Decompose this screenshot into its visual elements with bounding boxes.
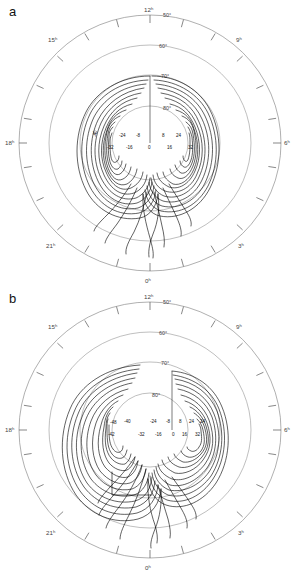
- contour-label-a-u3: 8: [162, 133, 165, 138]
- contour-label-a-l4: 32: [188, 145, 194, 150]
- svg-text:3h: 3h: [238, 529, 244, 536]
- contour-label-b-u3: -8: [166, 419, 171, 424]
- svg-text:21h: 21h: [46, 242, 56, 249]
- svg-text:15h: 15h: [48, 323, 58, 330]
- lat-label-80-b: 80°: [152, 392, 160, 398]
- lat-label-80-a: 80°: [163, 105, 171, 111]
- svg-text:18h: 18h: [5, 139, 15, 146]
- mlt-ticks-b: [19, 302, 281, 558]
- svg-text:9h: 9h: [236, 36, 242, 43]
- lat-label-60-b: 60°: [159, 330, 167, 336]
- contour-label-a-l3: 16: [167, 145, 173, 150]
- mlt-labels-b: 12h 9h 6h 3h 0h 21h 18h 15h: [5, 293, 290, 571]
- lat-label-60-a: 60°: [159, 43, 167, 49]
- svg-text:12h: 12h: [144, 293, 154, 300]
- contour-label-b-l5: 32: [195, 432, 201, 437]
- svg-text:6h: 6h: [284, 139, 290, 146]
- panel-a: a: [0, 0, 300, 287]
- contour-label-b-u6: 24: [200, 419, 206, 424]
- contours-nightside-b: [98, 457, 196, 548]
- lat-label-70-a: 70°: [161, 73, 169, 79]
- contours-nightside-a: [94, 184, 191, 258]
- contour-label-b-u4: 8: [179, 419, 182, 424]
- contour-label-a-l1: -16: [126, 145, 133, 150]
- lat-label-50-b: 50°: [163, 299, 171, 305]
- contour-label-a-u2: -8: [136, 133, 141, 138]
- contour-label-a-u4: 24: [176, 133, 182, 138]
- svg-text:15h: 15h: [48, 36, 58, 43]
- contour-label-a-u0: -40: [93, 130, 98, 137]
- contour-label-b-l3: 0: [172, 432, 175, 437]
- figure-container: a: [0, 0, 300, 574]
- svg-text:18h: 18h: [5, 426, 15, 433]
- contour-label-b-u1: -40: [124, 419, 131, 424]
- grid-rings-b: [19, 302, 281, 558]
- svg-text:0h: 0h: [145, 277, 151, 284]
- svg-text:0h: 0h: [145, 564, 151, 571]
- lat-label-50-a: 50°: [163, 12, 171, 18]
- latitude-labels-b: 50° 60° 70° 80°: [152, 299, 171, 398]
- svg-text:3h: 3h: [238, 242, 244, 249]
- panel-a-plot: 12h 9h 6h 3h 0h 21h 18h 15h 50° 60° 70° …: [0, 0, 300, 287]
- lat-label-70-b: 70°: [161, 360, 169, 366]
- contour-label-b-l4: 16: [182, 432, 188, 437]
- contour-label-b-u2: -24: [150, 419, 157, 424]
- svg-text:12h: 12h: [144, 6, 154, 13]
- contour-label-b-l0: -42: [108, 432, 115, 437]
- svg-text:6h: 6h: [284, 426, 290, 433]
- contour-label-b-u5: 24: [189, 419, 195, 424]
- contour-label-b-u0: -48: [110, 420, 117, 425]
- contour-label-b-l2: -16: [155, 432, 162, 437]
- contours-dawn-cell-a: [143, 76, 219, 217]
- panel-b: b: [0, 287, 300, 574]
- contour-label-a-l2: 0: [148, 145, 151, 150]
- svg-text:21h: 21h: [46, 529, 56, 536]
- contour-label-a-u1: -24: [119, 133, 126, 138]
- latitude-labels-a: 50° 60° 70° 80°: [159, 12, 171, 111]
- svg-text:9h: 9h: [236, 323, 242, 330]
- hour-suffix: h: [151, 6, 154, 11]
- contour-label-a-l0: -32: [107, 145, 114, 150]
- contour-label-b-l1: -32: [138, 432, 145, 437]
- contour-value-labels-b: -48 -40 -24 -8 8 24 24 -42 -32 -16 0 16 …: [108, 419, 206, 437]
- panel-b-plot: 12h 9h 6h 3h 0h 21h 18h 15h 50° 60° 70° …: [0, 287, 300, 574]
